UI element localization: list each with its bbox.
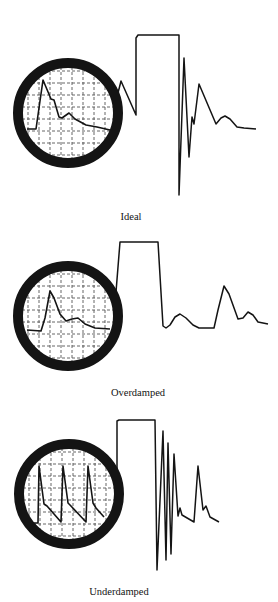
panel-ideal xyxy=(18,35,256,195)
damping-diagram xyxy=(0,0,278,602)
label-ideal: Ideal xyxy=(121,211,142,222)
square-wave-trace xyxy=(118,35,256,195)
square-wave-trace xyxy=(116,242,268,328)
panel-overdamped xyxy=(18,242,268,366)
panel-underdamped xyxy=(19,420,219,570)
label-overdamped: Overdamped xyxy=(111,387,165,398)
square-wave-trace xyxy=(117,420,219,570)
label-underdamped: Underdamped xyxy=(89,586,148,597)
